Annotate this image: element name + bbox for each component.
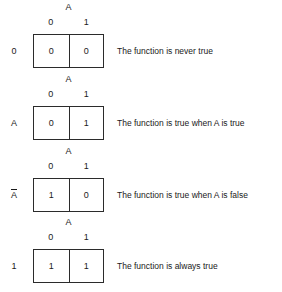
kmap-box: 1 0 xyxy=(33,178,104,212)
column-header-0: 0 xyxy=(33,230,69,244)
karnaugh-map-figure: 0 A 0 1 0 0 The function is never true A… xyxy=(0,0,282,292)
column-variable-label: A xyxy=(33,146,104,156)
column-header-1: 1 xyxy=(69,159,105,173)
column-header-0: 0 xyxy=(33,159,69,173)
column-header-row: 0 1 xyxy=(33,87,104,101)
column-variable-label: A xyxy=(33,217,104,227)
kmap-cell: 0 xyxy=(34,107,69,139)
kmap-cell: 0 xyxy=(34,35,69,67)
column-header-row: 0 1 xyxy=(33,159,104,173)
kmap-description: The function is never true xyxy=(117,34,282,68)
kmap-cell: 1 xyxy=(69,250,104,282)
kmap-cell: 0 xyxy=(69,179,104,211)
row-variable-label-text: A xyxy=(11,118,17,128)
row-variable-label-text: 0 xyxy=(11,46,16,56)
kmap-box: 1 1 xyxy=(33,249,104,283)
column-header-row: 0 1 xyxy=(33,15,104,29)
row-variable-label: 1 xyxy=(0,249,28,283)
column-header-1: 1 xyxy=(69,230,105,244)
kmap-cell: 1 xyxy=(34,250,69,282)
kmap-cell: 1 xyxy=(34,179,69,211)
kmap-cell: 1 xyxy=(69,107,104,139)
row-variable-label: A xyxy=(0,106,28,140)
column-header-0: 0 xyxy=(33,15,69,29)
kmap-description: The function is always true xyxy=(117,249,282,283)
kmap-row: A A 0 1 0 1 The function is true when A … xyxy=(0,72,282,144)
row-variable-label: 0 xyxy=(0,34,28,68)
kmap-description: The function is true when A is true xyxy=(117,106,282,140)
kmap-description: The function is true when A is false xyxy=(117,178,282,212)
kmap-row: 0 A 0 1 0 0 The function is never true xyxy=(0,0,282,72)
column-variable-label: A xyxy=(33,2,104,12)
row-variable-label: A xyxy=(0,178,28,212)
column-variable-label: A xyxy=(33,74,104,84)
column-header-row: 0 1 xyxy=(33,230,104,244)
kmap-box: 0 0 xyxy=(33,34,104,68)
kmap-row: 1 A 0 1 1 1 The function is always true xyxy=(0,215,282,287)
kmap-row: A A 0 1 1 0 The function is true when A … xyxy=(0,144,282,216)
kmap-cell: 0 xyxy=(69,35,104,67)
row-variable-label-text: A xyxy=(11,189,17,200)
column-header-1: 1 xyxy=(69,15,105,29)
row-variable-label-text: 1 xyxy=(11,261,16,271)
column-header-1: 1 xyxy=(69,87,105,101)
column-header-0: 0 xyxy=(33,87,69,101)
kmap-box: 0 1 xyxy=(33,106,104,140)
